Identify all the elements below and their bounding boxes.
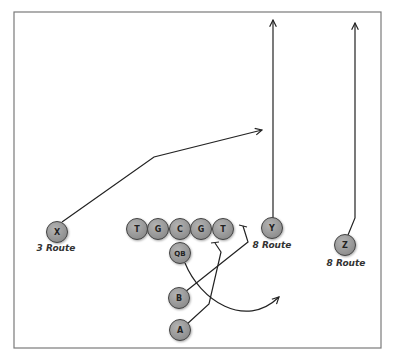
field-frame <box>14 12 381 348</box>
play-diagram: XTGCGTYZQBBA <box>0 0 393 360</box>
x-route-line <box>62 130 262 222</box>
player-label: Z <box>342 241 348 250</box>
player-qb: QB <box>170 243 191 264</box>
player-label: B <box>176 294 182 303</box>
qb-rollout-route <box>185 263 279 311</box>
x-route-label: 3 Route <box>37 243 76 253</box>
player-b: B <box>169 288 190 309</box>
player-lg: G <box>148 219 169 240</box>
player-y: Y <box>262 218 283 239</box>
player-c: C <box>170 219 191 240</box>
z-route-line <box>348 23 355 235</box>
player-rt: T <box>213 219 234 240</box>
player-rg: G <box>191 219 212 240</box>
y-route-label: 8 Route <box>253 240 292 250</box>
player-a: A <box>170 320 191 341</box>
player-label: A <box>177 326 184 335</box>
player-label: G <box>155 225 162 234</box>
player-label: C <box>177 225 183 234</box>
player-label: Y <box>268 224 275 233</box>
player-lt: T <box>127 219 148 240</box>
player-z: Z <box>335 235 356 256</box>
player-x: X <box>47 222 68 243</box>
player-label: QB <box>174 250 185 258</box>
z-route-label: 8 Route <box>327 258 366 268</box>
player-label: X <box>54 228 61 237</box>
player-label: T <box>220 225 226 234</box>
a-block-bar <box>211 242 219 243</box>
player-label: T <box>134 225 140 234</box>
player-label: G <box>198 225 205 234</box>
a-block-route <box>186 243 221 325</box>
